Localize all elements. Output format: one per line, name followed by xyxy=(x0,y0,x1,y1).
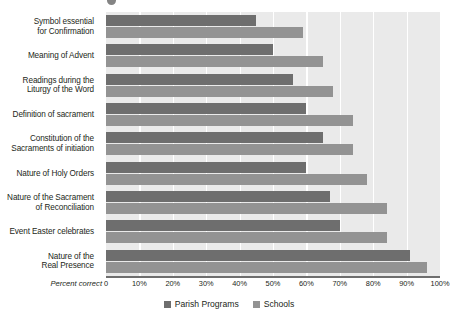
legend-label: Parish Programs xyxy=(175,299,239,309)
bar-group xyxy=(106,188,440,217)
grouped-bar-chart: Symbol essentialfor ConfirmationMeaning … xyxy=(0,0,458,322)
category-label: Constitution of theSacraments of initiat… xyxy=(0,134,94,153)
category-label: Event Easter celebrates xyxy=(0,227,94,237)
bar-group xyxy=(106,12,440,41)
x-axis-tick-label: 0 xyxy=(104,279,108,288)
bar-schools xyxy=(106,203,387,214)
x-axis-tick-label: 60% xyxy=(299,279,314,288)
category-label-line: Nature of the Sacrament xyxy=(0,193,94,203)
category-label-line: Liturgy of the Word xyxy=(0,85,94,95)
x-axis-line xyxy=(106,276,440,278)
x-axis-tick-label: 20% xyxy=(165,279,180,288)
legend-swatch-icon xyxy=(253,301,260,308)
category-label-line: Nature of Holy Orders xyxy=(0,169,94,179)
bar-parish-programs xyxy=(106,74,293,85)
category-label-line: Nature of the xyxy=(0,252,94,262)
bar-group xyxy=(106,129,440,158)
bar-parish-programs xyxy=(106,250,410,261)
category-label: Nature of theReal Presence xyxy=(0,252,94,271)
bar-group xyxy=(106,41,440,70)
category-label-line: Symbol essential xyxy=(0,17,94,27)
bar-schools xyxy=(106,262,427,273)
category-label-line: Readings during the xyxy=(0,76,94,86)
x-axis-tick-label: 90% xyxy=(399,279,414,288)
legend: Parish ProgramsSchools xyxy=(0,299,458,309)
clipped-mark-icon xyxy=(107,0,116,5)
plot-area xyxy=(106,12,440,276)
legend-item-schools[interactable]: Schools xyxy=(253,299,295,309)
bar-parish-programs xyxy=(106,132,323,143)
x-axis-tick-label: 50% xyxy=(266,279,281,288)
bar-schools xyxy=(106,27,303,38)
category-axis-labels: Symbol essentialfor ConfirmationMeaning … xyxy=(0,12,100,276)
bar-schools xyxy=(106,174,367,185)
bar-schools xyxy=(106,232,387,243)
bar-parish-programs xyxy=(106,15,256,26)
category-label-line: Real Presence xyxy=(0,261,94,271)
category-label-line: Definition of sacrament xyxy=(0,110,94,120)
legend-item-parish-programs[interactable]: Parish Programs xyxy=(164,299,239,309)
bar-parish-programs xyxy=(106,220,340,231)
gridline xyxy=(440,12,441,276)
bar-parish-programs xyxy=(106,191,330,202)
bar-group xyxy=(106,247,440,276)
bar-schools xyxy=(106,56,323,67)
bar-group xyxy=(106,159,440,188)
bar-parish-programs xyxy=(106,103,306,114)
bar-group xyxy=(106,71,440,100)
bar-group xyxy=(106,100,440,129)
category-label-line: Sacraments of initiation xyxy=(0,144,94,154)
bar-group xyxy=(106,217,440,246)
category-label: Readings during theLiturgy of the Word xyxy=(0,76,94,95)
category-label-line: Meaning of Advent xyxy=(0,51,94,61)
category-label: Symbol essentialfor Confirmation xyxy=(0,17,94,36)
bar-parish-programs xyxy=(106,162,306,173)
x-axis-tick-label: 70% xyxy=(332,279,347,288)
x-axis-tick-label: 80% xyxy=(366,279,381,288)
category-label: Meaning of Advent xyxy=(0,51,94,61)
legend-swatch-icon xyxy=(164,301,171,308)
x-axis-tick-label: 30% xyxy=(199,279,214,288)
bar-schools xyxy=(106,115,353,126)
category-label-line: for Confirmation xyxy=(0,27,94,37)
category-label: Nature of the Sacramentof Reconciliation xyxy=(0,193,94,212)
x-axis-title: Percent correct xyxy=(40,279,102,288)
category-label-line: Constitution of the xyxy=(0,134,94,144)
x-axis-tick-label: 10% xyxy=(132,279,147,288)
x-axis-tick-label: 100% xyxy=(431,279,450,288)
category-label-line: of Reconciliation xyxy=(0,203,94,213)
legend-label: Schools xyxy=(264,299,295,309)
category-label-line: Event Easter celebrates xyxy=(0,227,94,237)
bar-schools xyxy=(106,144,353,155)
category-label: Definition of sacrament xyxy=(0,110,94,120)
category-label: Nature of Holy Orders xyxy=(0,169,94,179)
bar-schools xyxy=(106,86,333,97)
bar-parish-programs xyxy=(106,44,273,55)
x-axis-tick-label: 40% xyxy=(232,279,247,288)
